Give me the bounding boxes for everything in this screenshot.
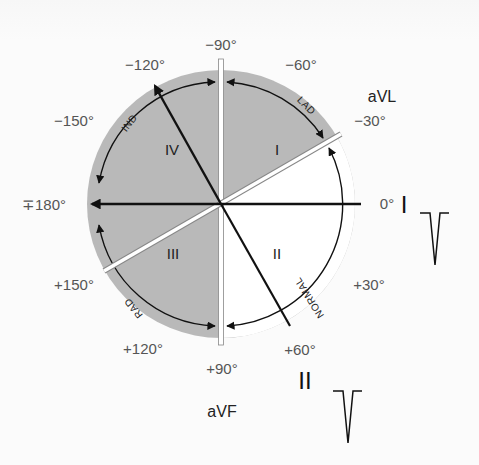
label-plus-150: +150°: [54, 276, 94, 293]
label-minus-120: −120°: [125, 56, 165, 73]
label-plus-90: +90°: [206, 360, 237, 377]
lead-i-label: I: [401, 191, 408, 218]
lead-ii-label: II: [298, 367, 311, 394]
quadrant-iv-label: IV: [165, 141, 179, 158]
label-plus-120: +120°: [123, 340, 163, 357]
label-minus-150: −150°: [54, 112, 94, 129]
lead-avl-label: aVL: [368, 88, 397, 105]
hexaxial-diagram: IV I III II IND LAD NORMAL RAD −90° −120…: [0, 0, 479, 465]
label-minus-30: −30°: [354, 112, 385, 129]
label-plus-60: +60°: [284, 341, 315, 358]
lead-ii-waveform: [333, 391, 362, 443]
lead-avf-label: aVF: [207, 403, 237, 420]
quadrant-i-label: I: [275, 141, 279, 158]
label-180: ∓180°: [22, 196, 66, 213]
label-minus-60: −60°: [285, 56, 316, 73]
label-minus-90: −90°: [205, 36, 236, 53]
quadrant-iii-label: III: [167, 245, 180, 262]
label-0: 0°: [380, 195, 394, 212]
quadrant-ii-label: II: [273, 245, 281, 262]
label-plus-30: +30°: [353, 276, 384, 293]
lead-i-waveform: [420, 213, 449, 265]
